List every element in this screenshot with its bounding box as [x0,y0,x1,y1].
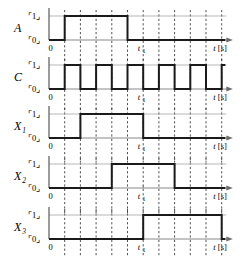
time-unit-label: [s] [218,242,227,252]
signal-label-x1: X [13,119,22,133]
origin-label: 0 [49,191,53,201]
marker-label-subscript: 1 [142,146,145,152]
time-axis-label: t [213,141,216,151]
time-axis-label: t [213,43,216,53]
waveform-a [49,16,225,40]
waveform-c [49,65,225,89]
signal-label-subscript: 1 [22,126,26,135]
signal-label-c: C [14,70,23,84]
signal-row-x3: X3⌜1⌟⌜0⌟0t1t[s] [13,207,233,257]
marker-label: t [138,92,141,102]
marker-label-subscript: 1 [142,48,145,54]
marker-label: t [138,191,141,201]
level-label-low: ⌜0⌟ [28,35,40,45]
time-unit-label: [s] [218,191,227,201]
time-unit-label: [s] [218,92,227,102]
waveform-x1 [49,114,225,138]
signal-label-x3: X [13,220,22,234]
time-axis-arrow [226,236,233,241]
marker-label: t [138,141,141,151]
time-unit-label: [s] [218,141,227,151]
marker-label-subscript: 1 [142,97,145,103]
level-label-high: ⌜1⌟ [28,109,40,119]
level-label-low: ⌜0⌟ [28,133,40,143]
time-axis-label: t [213,92,216,102]
signal-row-x1: X1⌜1⌟⌜0⌟0t1t[s] [13,106,233,162]
level-label-low: ⌜0⌟ [28,183,40,193]
signal-label-subscript: 3 [21,227,26,236]
marker-label: t [138,43,141,53]
origin-label: 0 [49,242,53,252]
level-label-low: ⌜0⌟ [28,234,40,244]
signal-label-a: A [13,21,22,35]
signal-label-subscript: 2 [22,176,26,185]
time-axis-label: t [213,191,216,201]
origin-label: 0 [49,141,53,151]
signal-row-x2: X2⌜1⌟⌜0⌟0t1t[s] [13,156,233,213]
origin-label: 0 [49,43,53,53]
timing-diagram-canvas: A⌜1⌟⌜0⌟0t1t[s]C⌜1⌟⌜0⌟0t1t[s]X1⌜1⌟⌜0⌟0t1t… [0,0,247,269]
signal-row-c: C⌜1⌟⌜0⌟0t1t[s] [14,57,233,112]
marker-label-subscript: 1 [142,196,145,202]
time-axis-label: t [213,242,216,252]
waveform-x3 [49,215,225,239]
level-label-high: ⌜1⌟ [28,159,40,169]
time-unit-label: [s] [218,43,227,53]
time-axis-arrow [226,185,233,190]
origin-label: 0 [49,92,53,102]
waveform-x2 [49,164,225,188]
level-label-high: ⌜1⌟ [28,210,40,220]
signal-row-a: A⌜1⌟⌜0⌟0t1t[s] [13,8,233,63]
time-axis-arrow [226,37,233,42]
marker-label: t [138,242,141,252]
signal-label-x2: X [13,169,22,183]
level-label-low: ⌜0⌟ [28,84,40,94]
level-label-high: ⌜1⌟ [28,60,40,70]
time-axis-arrow [226,86,233,91]
level-label-high: ⌜1⌟ [28,11,40,21]
timing-diagram-figure: A⌜1⌟⌜0⌟0t1t[s]C⌜1⌟⌜0⌟0t1t[s]X1⌜1⌟⌜0⌟0t1t… [0,0,247,269]
marker-label-subscript: 1 [142,247,145,253]
time-axis-arrow [226,135,233,140]
